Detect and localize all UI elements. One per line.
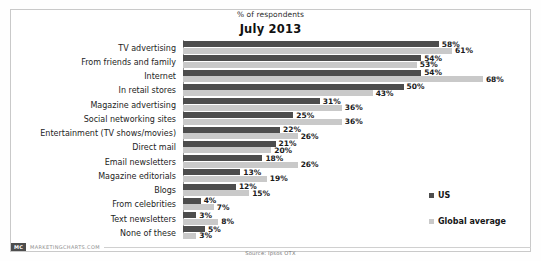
bar-value-label: 3% xyxy=(199,232,212,239)
bar-value-label: 4% xyxy=(204,197,217,204)
bar-value-label: 54% xyxy=(424,69,442,76)
bar-us xyxy=(183,84,404,90)
category-label: Magazine advertising xyxy=(90,101,176,110)
bar-value-label: 43% xyxy=(376,90,394,97)
bar-value-label: 3% xyxy=(199,212,212,219)
bar-global xyxy=(183,133,298,139)
legend-item[interactable]: US xyxy=(429,191,529,200)
category-label: Internet xyxy=(144,72,176,81)
bar-global xyxy=(183,219,218,225)
bar-global xyxy=(183,76,483,82)
bar-global xyxy=(183,105,342,111)
bar-global xyxy=(183,190,249,196)
chart-subtitle: % of respondents xyxy=(0,10,541,19)
bar-global xyxy=(183,176,267,182)
bar-value-label: 22% xyxy=(283,126,301,133)
bar-global xyxy=(183,62,417,68)
bar-value-label: 36% xyxy=(345,104,363,111)
bar-us xyxy=(183,198,201,204)
bar-value-label: 18% xyxy=(265,155,283,162)
legend-swatch-icon xyxy=(429,219,434,224)
bar-value-label: 68% xyxy=(486,76,504,83)
bar-value-label: 31% xyxy=(323,98,341,105)
bar-global xyxy=(183,233,196,239)
bar-us xyxy=(183,55,421,61)
bar-value-label: 15% xyxy=(252,190,270,197)
category-label: From celebrities xyxy=(112,200,176,209)
category-label: Entertainment (TV shows/movies) xyxy=(40,129,176,138)
category-label: Social networking sites xyxy=(84,115,176,124)
bar-us xyxy=(183,184,236,190)
bar-global xyxy=(183,48,452,54)
chart-image: % of respondents July 2013 TV advertisin… xyxy=(0,0,541,261)
legend-label: Global average xyxy=(438,217,506,226)
category-label: Email newsletters xyxy=(105,158,176,167)
category-label: None of these xyxy=(120,229,176,238)
chart-title: July 2013 xyxy=(0,22,541,36)
bar-value-label: 26% xyxy=(301,133,319,140)
bar-us xyxy=(183,155,262,161)
bar-value-label: 36% xyxy=(345,118,363,125)
bar-us xyxy=(183,41,439,47)
chart-legend: USGlobal average xyxy=(429,191,529,243)
category-label: From friends and family xyxy=(81,58,176,67)
source-note: Source: Ipsos OTX xyxy=(0,250,541,256)
category-label: Blogs xyxy=(154,186,176,195)
bar-global xyxy=(183,147,271,153)
bar-us xyxy=(183,141,276,147)
legend-label: US xyxy=(438,191,450,200)
legend-item[interactable]: Global average xyxy=(429,217,529,226)
bar-us xyxy=(183,112,293,118)
bar-global xyxy=(183,90,373,96)
bar-us xyxy=(183,169,240,175)
bar-value-label: 26% xyxy=(301,161,319,168)
bar-us xyxy=(183,127,280,133)
category-label: In retail stores xyxy=(119,86,176,95)
bar-value-label: 8% xyxy=(221,218,234,225)
bar-value-label: 13% xyxy=(243,169,261,176)
bar-us xyxy=(183,98,320,104)
legend-swatch-icon xyxy=(429,193,434,198)
bar-us xyxy=(183,212,196,218)
bar-global xyxy=(183,204,214,210)
category-label: Direct mail xyxy=(132,143,176,152)
bar-global xyxy=(183,162,298,168)
bar-global xyxy=(183,119,342,125)
category-label: Text newsletters xyxy=(111,215,176,224)
bar-value-label: 20% xyxy=(274,147,292,154)
category-label: TV advertising xyxy=(118,44,176,53)
bar-value-label: 25% xyxy=(296,112,314,119)
bar-value-label: 7% xyxy=(217,204,230,211)
footer-divider xyxy=(104,247,531,248)
bar-value-label: 61% xyxy=(455,47,473,54)
bar-value-label: 50% xyxy=(407,83,425,90)
category-label: Magazine editorials xyxy=(98,172,176,181)
bar-us xyxy=(183,70,421,76)
category-axis-labels: TV advertisingFrom friends and familyInt… xyxy=(14,40,180,240)
bar-value-label: 19% xyxy=(270,175,288,182)
